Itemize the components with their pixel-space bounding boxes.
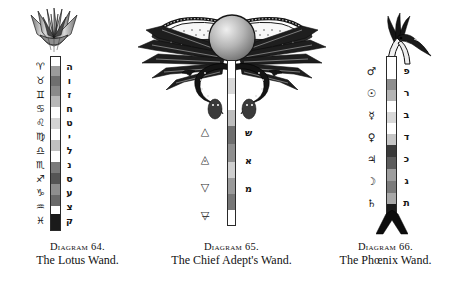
zodiac-glyph-capricorn: ♑ — [33, 188, 48, 198]
hebrew-glyph-zayin: ז — [63, 90, 76, 100]
zodiac-glyph-scorpio: ♏ — [33, 160, 48, 170]
figure-chief-adepts-wand: △ ◬ ▽ ▽̶ ש א מ Diagram 65. The Chief Ade… — [150, 0, 313, 284]
caption-lotus-wand: Diagram 64. The Lotus Wand. — [0, 240, 155, 268]
hebrew-glyph-kaph: כ — [400, 154, 413, 164]
zodiac-glyph-taurus: ♉ — [33, 76, 48, 86]
hebrew-glyph-tzaddi: צ — [63, 202, 76, 212]
zodiac-glyph-libra: ♎ — [33, 146, 48, 156]
illustration-plate: ♈ ♉ ♊ ♋ ♌ ♍ ♎ ♏ ♐ ♑ ♒ ♓ ה ו ז ח ט י ל נ … — [0, 0, 463, 284]
planet-glyph-venus: ♀ — [363, 132, 380, 143]
hebrew-glyph-tav: ת — [400, 198, 413, 208]
lotus-hebrew-column: ה ו ז ח ט י ל נ ס ע צ ק — [63, 62, 76, 226]
triangle-earth: ▽̶ — [196, 210, 214, 221]
zodiac-glyph-cancer: ♋ — [33, 104, 48, 114]
phoenix-planets-column: ♂ ☉ ☿ ♀ ♃ ☽ ♄ — [363, 66, 380, 214]
lotus-zodiac-column: ♈ ♉ ♊ ♋ ♌ ♍ ♎ ♏ ♐ ♑ ♒ ♓ — [33, 62, 48, 226]
hebrew-glyph-he: ה — [63, 62, 76, 72]
hebrew-glyph-qoph: ק — [63, 216, 76, 226]
hebrew-glyph-cheth: ח — [63, 104, 76, 114]
triangle-air: ◬ — [196, 154, 214, 165]
diagram-number-64: Diagram 64. — [0, 240, 155, 253]
hebrew-glyph-gimel: ג — [400, 176, 413, 186]
hebrew-glyph-beth: ב — [400, 110, 413, 120]
zodiac-glyph-gemini: ♊ — [33, 90, 48, 100]
hebrew-glyph-ayin: ע — [63, 188, 76, 198]
hebrew-glyph-resh: ר — [400, 88, 413, 98]
planet-glyph-sun: ☉ — [363, 88, 380, 99]
diagram-title-66: The Phœnix Wand. — [308, 253, 463, 268]
planet-glyph-saturn: ♄ — [363, 198, 380, 209]
lotus-wand-shaft — [50, 56, 61, 231]
hebrew-glyph-lamed: ל — [63, 146, 76, 156]
planet-glyph-mercury: ☿ — [363, 110, 380, 121]
zodiac-glyph-sagittarius: ♐ — [33, 174, 48, 184]
zodiac-glyph-pisces: ♓ — [33, 216, 48, 226]
triangle-fire: △ — [196, 126, 214, 137]
hebrew-glyph-daleth: ד — [400, 132, 413, 142]
caption-phoenix-wand: Diagram 66. The Phœnix Wand. — [308, 240, 463, 268]
hebrew-glyph-teth: ט — [63, 118, 76, 128]
zodiac-glyph-aquarius: ♒ — [33, 202, 48, 212]
diagram-number-66: Diagram 66. — [308, 240, 463, 253]
zodiac-glyph-aries: ♈ — [33, 62, 48, 72]
figure-phoenix-wand: ♂ ☉ ☿ ♀ ♃ ☽ ♄ פ ר ב ד כ ג ת Diagram 66. … — [308, 0, 463, 284]
phoenix-wand-shaft — [386, 56, 397, 214]
caption-chief-adepts-wand: Diagram 65. The Chief Adept's Wand. — [150, 240, 313, 268]
triangle-water: ▽ — [196, 182, 214, 193]
hebrew-glyph-vav: ו — [63, 76, 76, 86]
diagram-title-65: The Chief Adept's Wand. — [150, 253, 313, 268]
planet-glyph-jupiter: ♃ — [363, 154, 380, 165]
hebrew-glyph-nun: נ — [63, 160, 76, 170]
phoenix-hebrew-column: פ ר ב ד כ ג ת — [400, 66, 413, 214]
chief-elemental-column: △ ◬ ▽ ▽̶ — [196, 126, 214, 230]
hebrew-glyph-mem: מ — [242, 184, 255, 194]
lotus-flower-icon — [28, 8, 80, 58]
diagram-title-64: The Lotus Wand. — [0, 253, 155, 268]
zodiac-glyph-virgo: ♍ — [33, 132, 48, 142]
hebrew-glyph-peh: פ — [400, 66, 413, 76]
chief-adepts-wand-shaft — [227, 60, 236, 226]
diagram-number-65: Diagram 65. — [150, 240, 313, 253]
hebrew-glyph-yod: י — [63, 132, 76, 142]
planet-glyph-moon: ☽ — [363, 176, 380, 187]
hebrew-glyph-samekh: ס — [63, 174, 76, 184]
phoenix-head-icon — [374, 8, 436, 66]
zodiac-glyph-leo: ♌ — [33, 118, 48, 128]
hebrew-glyph-aleph: א — [242, 156, 255, 166]
chief-hebrew-column: ש א מ — [242, 128, 255, 204]
hebrew-glyph-shin: ש — [242, 128, 255, 138]
planet-glyph-mars: ♂ — [363, 66, 380, 77]
